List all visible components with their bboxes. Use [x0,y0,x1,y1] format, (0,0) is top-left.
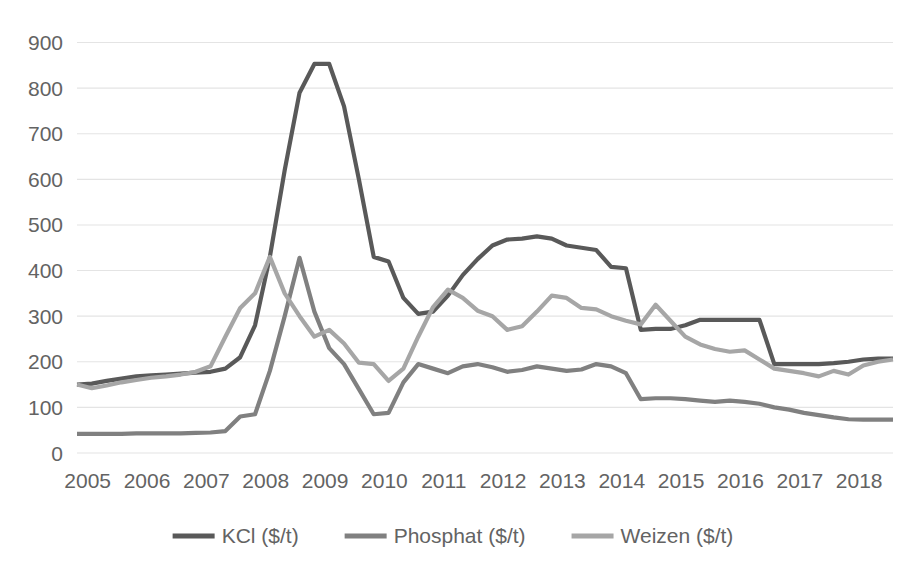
series-lines-group [77,64,893,434]
legend-label-phosphat-t: Phosphat ($/t) [394,524,526,547]
y-axis-tick-labels: 0100200300400500600700800900 [28,31,63,465]
y-tick-label-100: 100 [28,396,63,419]
line-chart: 0100200300400500600700800900 20052006200… [0,0,906,576]
x-tick-label-2015: 2015 [658,469,705,492]
series-line-kcl-t [77,64,893,385]
chart-legend: KCl ($/t)Phosphat ($/t)Weizen ($/t) [173,524,734,547]
x-tick-label-2014: 2014 [598,469,645,492]
x-tick-label-2011: 2011 [421,469,466,492]
x-tick-label-2018: 2018 [836,469,883,492]
y-tick-label-900: 900 [28,31,63,54]
x-tick-label-2005: 2005 [64,469,111,492]
x-tick-label-2012: 2012 [480,469,527,492]
y-tick-label-400: 400 [28,259,63,282]
chart-canvas: 0100200300400500600700800900 20052006200… [0,0,906,576]
y-tick-label-600: 600 [28,168,63,191]
x-tick-label-2008: 2008 [242,469,289,492]
y-tick-label-200: 200 [28,350,63,373]
legend-item-weizen-t[interactable]: Weizen ($/t) [572,524,734,547]
gridlines-group [77,43,893,454]
y-tick-label-800: 800 [28,77,63,100]
series-line-weizen-t [77,257,893,388]
x-tick-label-2006: 2006 [124,469,171,492]
y-tick-label-700: 700 [28,122,63,145]
x-tick-label-2009: 2009 [302,469,349,492]
x-tick-label-2010: 2010 [361,469,408,492]
x-tick-label-2007: 2007 [183,469,230,492]
x-tick-label-2017: 2017 [776,469,823,492]
legend-label-weizen-t: Weizen ($/t) [621,524,734,547]
x-axis-tick-labels: 2005200620072008200920102011201220132014… [64,469,882,492]
legend-item-phosphat-t[interactable]: Phosphat ($/t) [345,524,526,547]
y-tick-label-300: 300 [28,305,63,328]
legend-label-kcl-t: KCl ($/t) [222,524,299,547]
y-tick-label-500: 500 [28,213,63,236]
legend-item-kcl-t[interactable]: KCl ($/t) [173,524,299,547]
y-tick-label-0: 0 [51,442,63,465]
x-tick-label-2013: 2013 [539,469,586,492]
x-tick-label-2016: 2016 [717,469,764,492]
